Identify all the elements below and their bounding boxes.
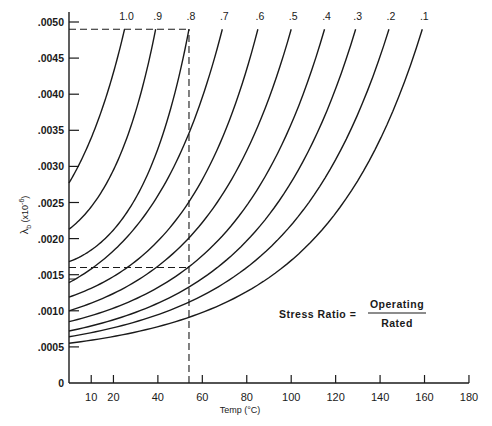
curve-stress-9 bbox=[69, 29, 156, 229]
y-tick-label: .0005 bbox=[38, 341, 64, 353]
y-tick-label: .0015 bbox=[38, 269, 64, 281]
y-tick-label: .0035 bbox=[38, 124, 64, 136]
stress-ratio-curves bbox=[69, 29, 422, 343]
x-tick-label: 180 bbox=[460, 391, 478, 403]
x-tick-label: 80 bbox=[241, 391, 253, 403]
y-tick-label: .0050 bbox=[38, 16, 64, 28]
y-tick-label: .0010 bbox=[38, 305, 64, 317]
stress-ratio-numerator: Operating bbox=[370, 298, 424, 310]
curve-stress-1 bbox=[69, 29, 422, 343]
curve-label: .3 bbox=[353, 10, 362, 22]
curve-stress-7 bbox=[69, 29, 222, 282]
curve-labels: 1.0.9.8.7.6.5.4.3.2.1 bbox=[119, 10, 429, 22]
y-tick-label: .0025 bbox=[38, 197, 64, 209]
x-tick-label: 160 bbox=[415, 391, 433, 403]
stress-ratio-annotation: Stress Ratio = Operating Rated bbox=[279, 298, 426, 329]
svg-text:λb (x10-6): λb (x10-6) bbox=[18, 196, 32, 235]
x-tick-label: 40 bbox=[152, 391, 164, 403]
curve-stress-4 bbox=[69, 29, 325, 321]
axes: 10204060801001201401601800.0005.0010.001… bbox=[38, 12, 478, 403]
curve-label: .8 bbox=[187, 10, 196, 22]
curve-label: .2 bbox=[387, 10, 396, 22]
x-tick-label: 60 bbox=[196, 391, 208, 403]
curve-label: .6 bbox=[255, 10, 264, 22]
y-tick-label: .0040 bbox=[38, 88, 64, 100]
x-tick-label: 100 bbox=[282, 391, 300, 403]
curve-label: 1.0 bbox=[119, 10, 134, 22]
x-tick-label: 10 bbox=[85, 391, 97, 403]
curve-label: .5 bbox=[289, 10, 298, 22]
y-axis-title-unit: (x10 bbox=[20, 205, 30, 225]
failure-rate-chart: 10204060801001201401601800.0005.0010.001… bbox=[0, 0, 492, 426]
curve-label: .7 bbox=[220, 10, 229, 22]
stress-ratio-label: Stress Ratio = bbox=[279, 308, 356, 320]
curve-stress-10 bbox=[69, 29, 125, 183]
y-tick-label: .0020 bbox=[38, 233, 64, 245]
x-axis-title: Temp (°C) bbox=[220, 405, 261, 415]
stress-ratio-denominator: Rated bbox=[381, 317, 413, 329]
x-tick-label: 140 bbox=[371, 391, 389, 403]
y-axis-title: λb (x10-6) bbox=[18, 196, 32, 235]
x-tick-label: 120 bbox=[326, 391, 344, 403]
y-axis-title-close: ) bbox=[20, 196, 30, 199]
y-tick-label: 0 bbox=[58, 377, 64, 389]
curve-label: .1 bbox=[420, 10, 429, 22]
y-tick-label: .0045 bbox=[38, 52, 64, 64]
curve-stress-3 bbox=[69, 29, 356, 331]
y-tick-label: .0030 bbox=[38, 160, 64, 172]
curve-label: .4 bbox=[322, 10, 331, 22]
reference-lines bbox=[69, 29, 189, 383]
curve-label: .9 bbox=[153, 10, 162, 22]
x-tick-label: 20 bbox=[107, 391, 119, 403]
